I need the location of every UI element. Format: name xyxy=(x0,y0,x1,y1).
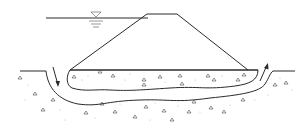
diagram-svg xyxy=(0,0,305,132)
cutoff-backfill-block xyxy=(67,70,258,90)
embankment-outline xyxy=(70,14,248,70)
inflow-arrow-icon xyxy=(53,67,60,87)
dam-diagram xyxy=(0,0,305,132)
water-level-icon xyxy=(89,12,103,27)
outflow-arrow-icon xyxy=(260,63,269,81)
